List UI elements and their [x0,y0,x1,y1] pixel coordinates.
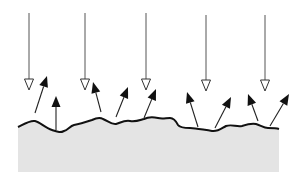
reflected-ray-line [190,102,198,127]
reflected-ray-line [215,107,226,128]
reflected-ray-line [116,97,124,117]
reflected-ray-line [96,93,101,112]
incident-ray [142,13,151,90]
incident-ray [261,15,270,91]
incident-ray [202,15,211,91]
reflected-ray [91,82,101,112]
scattering-diagram [0,0,302,181]
incident-ray [81,13,90,90]
reflected-ray [35,76,48,113]
incident-ray [25,13,34,90]
reflected-ray [116,87,128,117]
hollow-arrowhead-icon [81,79,90,90]
surface [18,117,279,172]
solid-arrowhead-icon [280,94,289,106]
hollow-arrowhead-icon [142,79,151,90]
reflected-ray [248,94,258,121]
solid-arrowhead-icon [91,82,100,94]
solid-arrowhead-icon [148,89,156,101]
reflected-ray [270,94,289,126]
reflected-ray-line [35,86,44,113]
solid-arrowhead-icon [39,76,48,88]
hollow-arrowhead-icon [261,80,270,91]
solid-arrowhead-icon [120,87,128,99]
reflected-ray [52,96,61,130]
reflected-ray-line [252,104,258,121]
hollow-arrowhead-icon [202,80,211,91]
reflected-ray [215,97,231,128]
reflected-ray [144,89,156,118]
incident-rays [25,13,270,91]
solid-arrowhead-icon [52,96,61,107]
solid-arrowhead-icon [186,92,195,104]
solid-arrowhead-icon [222,97,231,109]
hollow-arrowhead-icon [25,79,34,90]
reflected-ray-line [270,103,283,126]
reflected-ray-line [144,99,152,118]
solid-arrowhead-icon [248,94,256,106]
reflected-ray [186,92,198,127]
